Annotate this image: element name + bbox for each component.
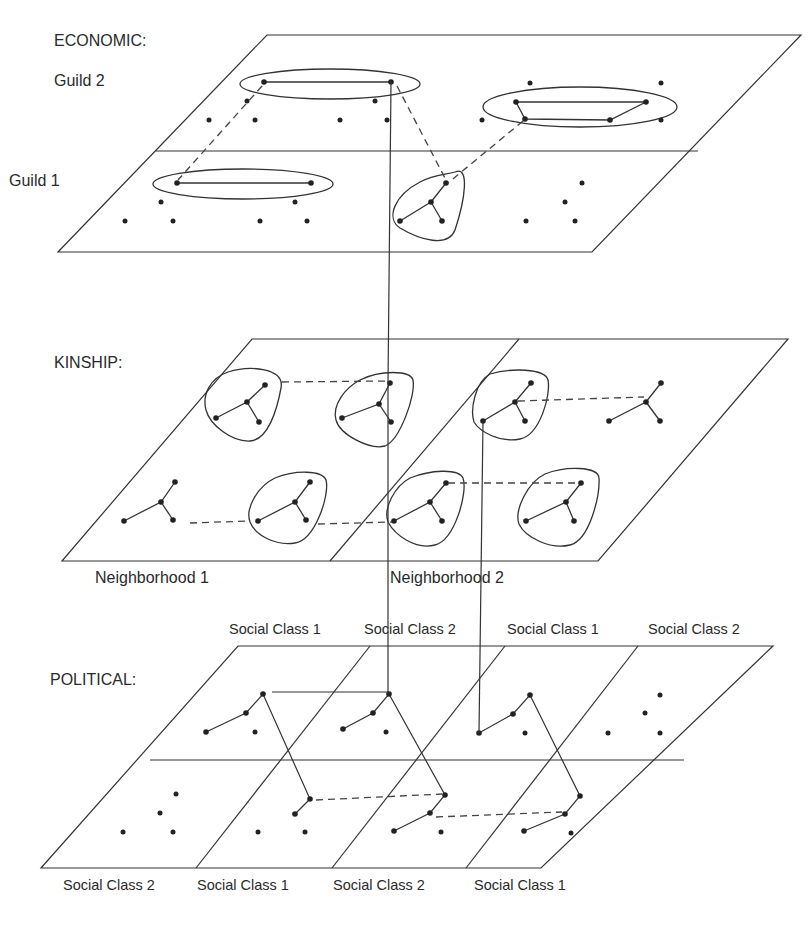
kin-tie [318,522,392,524]
social-class-top-3: Social Class 1 [507,621,599,637]
social-class-bottom-3: Social Class 2 [333,877,425,893]
economic-plane [58,35,801,252]
kinship-layer [62,339,788,561]
guild-2-label: Guild 2 [54,72,105,90]
guild1-cluster-a [153,169,333,199]
cross-guild-tie [178,86,262,180]
political-layer [41,646,773,868]
political-divider-2 [332,646,505,868]
social-class-top-2: Social Class 2 [364,621,456,637]
social-class-bottom-4: Social Class 1 [474,877,566,893]
economic-kinship-connector [388,83,391,383]
neighborhood-1-label: Neighborhood 1 [95,569,209,587]
political-divider-3 [466,646,638,868]
social-class-bottom-1: Social Class 2 [63,877,155,893]
kin-tie [282,381,388,382]
kin-tie [190,521,250,523]
political-layer-title: POLITICAL: [50,671,136,689]
cross-guild-tie [397,86,446,180]
multilayer-network-diagram: ECONOMIC: Guild 2 Guild 1 KINSHIP: Neigh… [0,0,809,925]
kinship-layer-title: KINSHIP: [54,354,122,372]
economic-layer [58,35,801,252]
neighborhood-2-label: Neighborhood 2 [390,569,504,587]
guild-1-label: Guild 1 [9,172,60,190]
guild1-cluster-b [393,171,465,240]
social-class-top-4: Social Class 2 [648,621,740,637]
neighborhood-divider [330,339,519,561]
political-divider-1 [196,646,370,868]
cross-guild-tie [448,121,523,183]
social-class-bottom-2: Social Class 1 [197,877,289,893]
political-tie [436,812,562,817]
guild2-cluster-a [240,69,420,99]
political-plane [41,646,773,868]
political-tie [316,794,442,800]
kin-tie [518,397,644,401]
social-class-top-1: Social Class 1 [229,621,321,637]
guild2-cluster-b [483,87,677,127]
diagram-canvas [0,0,809,925]
economic-layer-title: ECONOMIC: [54,32,146,50]
